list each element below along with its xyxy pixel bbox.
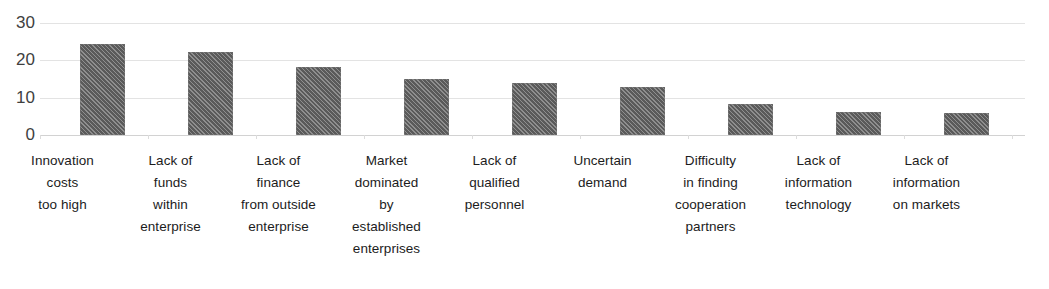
- x-label-line: enterprises: [332, 238, 441, 260]
- x-tick: [904, 135, 905, 139]
- bar-lack-of-funds-within-enterprise[interactable]: [188, 52, 233, 135]
- x-label-line: from outside: [224, 194, 333, 216]
- x-label-line: too high: [8, 194, 117, 216]
- bars-group: [40, 23, 1025, 135]
- x-label-lack-of-qualified-personnel: Lack ofqualifiedpersonnel: [440, 150, 549, 216]
- x-tick: [796, 135, 797, 139]
- y-tick-label-20: 20: [1, 51, 35, 68]
- x-label-lack-of-information-on-markets: Lack ofinformationon markets: [872, 150, 981, 216]
- x-tick: [256, 135, 257, 139]
- bar-lack-of-qualified-personnel[interactable]: [512, 83, 557, 135]
- x-label-line: demand: [548, 172, 657, 194]
- x-label-line: enterprise: [116, 216, 225, 238]
- bar-uncertain-demand[interactable]: [620, 87, 665, 135]
- plot-area: [40, 23, 1025, 135]
- x-label-line: established: [332, 216, 441, 238]
- x-label-line: dominated: [332, 172, 441, 194]
- x-label-uncertain-demand: Uncertaindemand: [548, 150, 657, 194]
- x-label-line: Lack of: [116, 150, 225, 172]
- x-label-line: enterprise: [224, 216, 333, 238]
- y-tick-label-10: 10: [1, 89, 35, 106]
- x-tick: [472, 135, 473, 139]
- x-label-lack-of-funds-within-enterprise: Lack offundswithinenterprise: [116, 150, 225, 238]
- bar-lack-of-information-on-markets[interactable]: [944, 113, 989, 135]
- x-label-line: Lack of: [224, 150, 333, 172]
- x-label-line: by: [332, 194, 441, 216]
- x-label-line: Uncertain: [548, 150, 657, 172]
- bar-lack-of-finance-from-outside-enterprise[interactable]: [296, 67, 341, 135]
- x-label-lack-of-finance-from-outside-enterprise: Lack offinancefrom outsideenterprise: [224, 150, 333, 238]
- x-label-line: Lack of: [440, 150, 549, 172]
- x-tick: [364, 135, 365, 139]
- bar-lack-of-information-technology[interactable]: [836, 112, 881, 135]
- x-label-market-dominated-by-established-enterprises: Marketdominatedbyestablishedenterprises: [332, 150, 441, 260]
- bar-innovation-costs-too-high[interactable]: [80, 44, 125, 135]
- x-label-line: on markets: [872, 194, 981, 216]
- x-label-line: finance: [224, 172, 333, 194]
- x-label-line: personnel: [440, 194, 549, 216]
- x-label-line: Difficulty: [656, 150, 765, 172]
- x-tick: [148, 135, 149, 139]
- x-label-line: information: [764, 172, 873, 194]
- x-axis-labels: Innovationcoststoo high Lack offundswith…: [0, 150, 1049, 280]
- x-label-line: partners: [656, 216, 765, 238]
- x-label-line: technology: [764, 194, 873, 216]
- y-tick-label-30: 30: [1, 14, 35, 31]
- x-label-line: in finding: [656, 172, 765, 194]
- bar-chart: 30 20 10 0: [0, 0, 1049, 289]
- bar-market-dominated-by-established-enterprises[interactable]: [404, 79, 449, 135]
- x-tick: [1012, 135, 1013, 139]
- x-label-line: Innovation: [8, 150, 117, 172]
- x-label-innovation-costs-too-high: Innovationcoststoo high: [8, 150, 117, 216]
- bar-difficulty-in-finding-cooperation-partners[interactable]: [728, 104, 773, 135]
- x-label-line: qualified: [440, 172, 549, 194]
- y-tick-label-0: 0: [1, 126, 35, 143]
- x-label-line: Lack of: [764, 150, 873, 172]
- gridline-baseline-0: [40, 135, 1025, 136]
- x-label-line: within: [116, 194, 225, 216]
- x-tick: [688, 135, 689, 139]
- x-tick: [580, 135, 581, 139]
- x-label-line: cooperation: [656, 194, 765, 216]
- x-label-line: funds: [116, 172, 225, 194]
- x-label-line: Market: [332, 150, 441, 172]
- x-label-lack-of-information-technology: Lack ofinformationtechnology: [764, 150, 873, 216]
- x-tick: [40, 135, 41, 139]
- x-label-line: costs: [8, 172, 117, 194]
- x-label-line: Lack of: [872, 150, 981, 172]
- x-label-line: information: [872, 172, 981, 194]
- x-label-difficulty-in-finding-cooperation-partners: Difficultyin findingcooperationpartners: [656, 150, 765, 238]
